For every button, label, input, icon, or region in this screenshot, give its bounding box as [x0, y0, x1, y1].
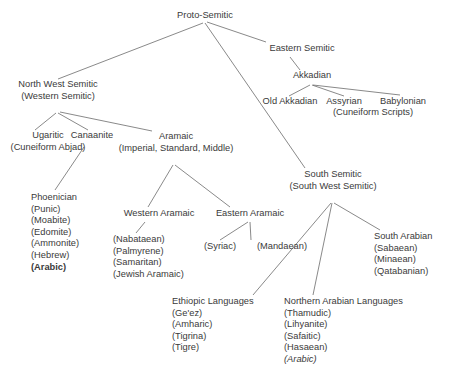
node-line: (Syriac) — [193, 241, 247, 253]
node-canaanite[interactable]: Canaanite — [62, 130, 122, 142]
node-line: (Cuneiform Abjad) — [0, 142, 96, 154]
node-cuneiform-scripts: (Cuneiform Scripts) — [318, 107, 428, 119]
node-assyrian[interactable]: Assyrian — [318, 96, 370, 108]
node-syriac[interactable]: (Syriac) — [193, 241, 247, 253]
edge-eastern-aramaic-to-syriac — [220, 222, 248, 240]
edge-eastern-aramaic-to-mandaean — [250, 222, 251, 240]
node-line: Aramaic — [117, 131, 235, 143]
node-northern-arabian-languages[interactable]: Northern Arabian Languages (Thamudic) (L… — [284, 296, 430, 366]
node-line: (Samaritan) — [113, 257, 209, 269]
edge-canaanite-to-phoenician — [55, 147, 84, 190]
node-line: (Jewish Aramaic) — [113, 269, 209, 281]
node-line-arabic-italic: (Arabic) — [284, 354, 430, 366]
node-south-semitic[interactable]: South Semitic (South West Semitic) — [277, 169, 389, 192]
node-line: Proto-Semitic — [160, 10, 250, 22]
edge-nws-to-canaanite — [58, 113, 88, 130]
node-line: South Arabian — [374, 231, 450, 243]
node-aramaic[interactable]: Aramaic (Imperial, Standard, Middle) — [117, 131, 235, 154]
node-babylonian[interactable]: Babylonian — [372, 96, 434, 108]
node-line: South Semitic — [277, 169, 389, 181]
node-line: Northern Arabian Languages — [284, 296, 430, 308]
edge-akkadian-to-old-akkadian — [289, 85, 310, 96]
node-line-arabic-bold: (Arabic) — [31, 262, 111, 274]
edge-south-semitic-to-south-arabian — [334, 203, 380, 230]
node-line: (Edomite) — [31, 227, 111, 239]
node-phoenician[interactable]: Phoenician (Punic) (Moabite) (Edomite) (… — [31, 192, 111, 273]
node-line: (Minaean) — [374, 254, 450, 266]
node-mandaean[interactable]: (Mandaean) — [247, 241, 317, 253]
semitic-language-tree-diagram: Proto-Semitic North West Semitic (Wester… — [0, 0, 450, 375]
node-line: (Tigrina) — [172, 331, 282, 343]
node-line: Canaanite — [62, 130, 122, 142]
node-line: (Tigre) — [172, 342, 282, 354]
node-line: (Mandaean) — [247, 241, 317, 253]
node-line: Eastern Semitic — [262, 43, 342, 55]
node-line: (Imperial, Standard, Middle) — [117, 143, 235, 155]
edge-western-aramaic-to-list — [136, 222, 145, 233]
node-line: North West Semitic — [8, 79, 108, 91]
node-old-akkadian[interactable]: Old Akkadian — [255, 96, 325, 108]
node-line: (Safaitic) — [284, 331, 430, 343]
node-line: (Ammonite) — [31, 238, 111, 250]
node-line: (Thamudic) — [284, 308, 430, 320]
node-line: (Moabite) — [31, 215, 111, 227]
node-line: Ethiopic Languages — [172, 296, 282, 308]
node-eastern-semitic[interactable]: Eastern Semitic — [262, 43, 342, 55]
edge-nws-to-ugaritic — [35, 113, 56, 130]
node-line: (Sabaean) — [374, 243, 450, 255]
node-line: (Hebrew) — [31, 250, 111, 262]
node-eastern-aramaic[interactable]: Eastern Aramaic — [205, 208, 295, 220]
node-north-west-semitic[interactable]: North West Semitic (Western Semitic) — [8, 79, 108, 102]
node-line: Western Aramaic — [114, 208, 204, 220]
node-line: Phoenician — [31, 192, 111, 204]
node-line: (Ge'ez) — [172, 308, 282, 320]
node-line: (Amharic) — [172, 319, 282, 331]
node-line: Assyrian — [318, 96, 370, 108]
node-western-aramaic[interactable]: Western Aramaic — [114, 208, 204, 220]
node-proto-semitic[interactable]: Proto-Semitic — [160, 10, 250, 22]
node-line: Old Akkadian — [255, 96, 325, 108]
node-line: (Hasaean) — [284, 342, 430, 354]
node-line: (Qatabanian) — [374, 266, 450, 278]
node-south-arabian[interactable]: South Arabian (Sabaean) (Minaean) (Qatab… — [374, 231, 450, 277]
node-line: (Cuneiform Scripts) — [318, 107, 428, 119]
node-ethiopic-languages[interactable]: Ethiopic Languages (Ge'ez) (Amharic) (Ti… — [172, 296, 282, 354]
edge-aramaic-to-western-aramaic — [148, 165, 173, 207]
node-line: (South West Semitic) — [277, 181, 389, 193]
node-line: (Western Semitic) — [8, 91, 108, 103]
edge-proto-to-nws — [58, 23, 203, 79]
node-line: Eastern Aramaic — [205, 208, 295, 220]
node-line: Akkadian — [279, 70, 345, 82]
node-line: Babylonian — [372, 96, 434, 108]
node-line: (Lihyanite) — [284, 319, 430, 331]
node-akkadian[interactable]: Akkadian — [279, 70, 345, 82]
edge-aramaic-to-eastern-aramaic — [175, 165, 230, 207]
node-line: (Punic) — [31, 204, 111, 216]
edge-eastern-semitic-to-akkadian — [290, 57, 300, 70]
